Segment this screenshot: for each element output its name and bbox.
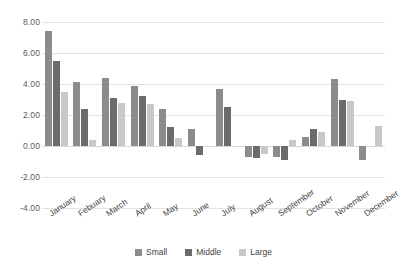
bar-middle — [139, 96, 146, 146]
bar-middle — [53, 61, 60, 146]
bar-group — [99, 22, 128, 208]
legend-swatch-icon — [135, 249, 142, 256]
bar-middle — [110, 98, 117, 146]
legend-swatch-icon — [185, 249, 192, 256]
legend-label: Small — [146, 247, 167, 257]
bar-group — [328, 22, 357, 208]
y-tick-label: -2.00 — [2, 172, 40, 182]
bar-middle — [281, 146, 288, 160]
bar-group — [299, 22, 328, 208]
bar-group — [156, 22, 185, 208]
bar-small — [273, 146, 280, 157]
bar-small — [102, 78, 109, 146]
bar-small — [188, 129, 195, 146]
bar-group — [242, 22, 271, 208]
bar-large — [118, 103, 125, 146]
bar-middle — [310, 129, 317, 146]
bar-small — [131, 86, 138, 146]
legend-label: Large — [250, 247, 272, 257]
bar-large — [89, 140, 96, 146]
bar-small — [159, 109, 166, 146]
y-tick-label: 6.00 — [2, 48, 40, 58]
bar-group — [271, 22, 300, 208]
bar-middle — [253, 146, 260, 158]
bar-large — [318, 132, 325, 146]
y-tick-label: 4.00 — [2, 79, 40, 89]
bar-large — [289, 140, 296, 146]
legend-item-middle[interactable]: Middle — [185, 247, 221, 257]
y-axis-labels: 8.006.004.002.000.00-2.00-4.00 — [0, 22, 40, 208]
legend-item-large[interactable]: Large — [239, 247, 272, 257]
bar-large — [61, 92, 68, 146]
legend-item-small[interactable]: Small — [135, 247, 167, 257]
y-tick-label: -4.00 — [2, 203, 40, 213]
bar-small — [359, 146, 366, 160]
chart-legend: SmallMiddleLarge — [0, 247, 407, 257]
legend-swatch-icon — [239, 249, 246, 256]
y-tick-label: 8.00 — [2, 17, 40, 27]
bar-middle — [196, 146, 203, 155]
bar-large — [375, 126, 382, 146]
y-tick-label: 2.00 — [2, 110, 40, 120]
bar-small — [73, 82, 80, 146]
bar-middle — [81, 109, 88, 146]
bar-chart: 8.006.004.002.000.00-2.00-4.00 JanuaryFe… — [0, 0, 407, 263]
bar-small — [331, 79, 338, 146]
bar-large — [147, 104, 154, 146]
bar-group — [128, 22, 157, 208]
y-tick-label: 0.00 — [2, 141, 40, 151]
bar-middle — [224, 107, 231, 146]
bar-large — [347, 101, 354, 146]
bar-small — [245, 146, 252, 157]
bar-group — [42, 22, 71, 208]
bar-group — [356, 22, 385, 208]
bar-small — [302, 137, 309, 146]
plot-area — [42, 22, 385, 208]
bar-small — [45, 31, 52, 146]
bar-groups — [42, 22, 385, 208]
bar-middle — [339, 100, 346, 147]
bar-group — [71, 22, 100, 208]
bar-small — [216, 89, 223, 146]
bar-large — [261, 146, 268, 154]
legend-label: Middle — [196, 247, 221, 257]
bar-group — [185, 22, 214, 208]
bar-group — [213, 22, 242, 208]
bar-large — [175, 138, 182, 146]
bar-middle — [167, 127, 174, 146]
